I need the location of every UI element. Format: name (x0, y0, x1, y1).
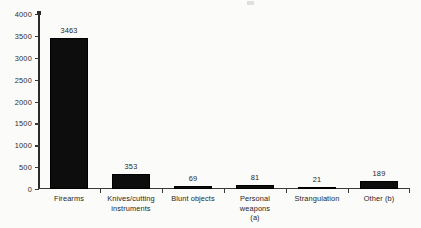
bar-slot: 81 (224, 14, 286, 189)
bar-value-label: 353 (125, 162, 138, 171)
bar[interactable] (236, 185, 274, 189)
bar-value-label: 81 (251, 173, 260, 182)
y-axis-tick-mark (35, 189, 39, 190)
y-axis-tick-label: 0 (28, 185, 32, 194)
y-axis-tick-label: 2500 (15, 75, 32, 84)
category-label-line: Strangulation (286, 194, 348, 204)
bar[interactable] (360, 181, 398, 189)
y-axis-tick-label: 500 (19, 163, 32, 172)
category-label-line: (a) (224, 213, 286, 223)
bar[interactable] (174, 186, 212, 189)
x-axis-category-label: Knives/cuttinginstruments (100, 194, 162, 213)
x-axis-category-label: Firearms (38, 194, 100, 204)
x-axis-category-label: Other (b) (348, 194, 410, 204)
x-axis-tick-mark (100, 189, 101, 193)
y-axis-tick-label: 1000 (15, 141, 32, 150)
bar[interactable] (112, 174, 150, 189)
y-axis-tick-label: 3000 (15, 53, 32, 62)
x-axis-end-tick (409, 189, 410, 193)
x-axis-category-label: Blunt objects (162, 194, 224, 204)
x-axis-category-label: Strangulation (286, 194, 348, 204)
category-label-line: Blunt objects (162, 194, 224, 204)
bar-slot: 353 (100, 14, 162, 189)
scan-artifact (247, 1, 254, 5)
x-axis-tick-mark (348, 189, 349, 193)
y-axis-tick-label: 2000 (15, 97, 32, 106)
bar-value-label: 69 (189, 174, 198, 183)
bar[interactable] (298, 187, 336, 189)
bar-value-label: 189 (373, 169, 386, 178)
bar-slot: 69 (162, 14, 224, 189)
bar[interactable] (50, 38, 88, 190)
x-axis-tick-mark (162, 189, 163, 193)
plot-area: 05001000150020002500300035004000 3463353… (38, 14, 410, 189)
y-axis-tick-label: 1500 (15, 119, 32, 128)
x-axis-tick-mark (224, 189, 225, 193)
bar-series: 3463353698121189 (38, 14, 410, 189)
category-label-line: Other (b) (348, 194, 410, 204)
chart-page: 05001000150020002500300035004000 3463353… (0, 0, 421, 228)
x-axis-tick-mark (286, 189, 287, 193)
bar-slot: 189 (348, 14, 410, 189)
bar-value-label: 3463 (60, 26, 77, 35)
bar-slot: 3463 (38, 14, 100, 189)
bar-slot: 21 (286, 14, 348, 189)
y-axis-tick-label: 4000 (15, 10, 32, 19)
category-label-line: instruments (100, 204, 162, 214)
category-label-line: Knives/cutting (100, 194, 162, 204)
category-label-line: Personal weapons (224, 194, 286, 213)
category-label-line: Firearms (38, 194, 100, 204)
bar-value-label: 21 (313, 175, 322, 184)
x-axis-category-labels: FirearmsKnives/cuttinginstrumentsBlunt o… (38, 194, 410, 226)
x-axis-category-label: Personal weapons(a) (224, 194, 286, 223)
y-axis-tick-label: 3500 (15, 31, 32, 40)
